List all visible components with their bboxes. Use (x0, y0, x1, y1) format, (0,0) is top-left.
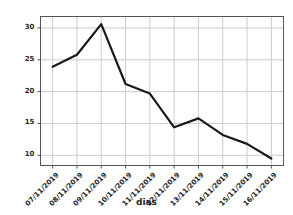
chart-figure: 1015202530 07/11/201908/11/201909/11/201… (0, 0, 293, 215)
y-tick-label: 15 (13, 118, 35, 126)
y-tick-label: 30 (13, 23, 35, 31)
y-tick-label: 20 (13, 87, 35, 95)
y-tick-label: 25 (13, 55, 35, 63)
y-tick-label: 10 (13, 150, 35, 158)
x-axis-title: dias (0, 197, 293, 207)
